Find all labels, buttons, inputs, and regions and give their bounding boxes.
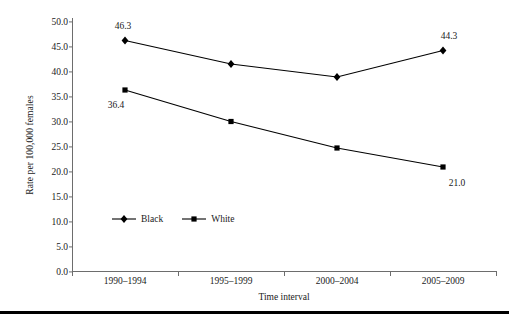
- x-tick-label: 1990–1994: [65, 276, 185, 286]
- diamond-marker-icon: [111, 213, 137, 225]
- data-point-marker: [228, 60, 235, 68]
- data-point-marker: [440, 164, 445, 169]
- y-tick-label: 45.0: [26, 42, 68, 52]
- y-tick-label: 30.0: [26, 117, 68, 127]
- data-point-marker: [334, 73, 341, 81]
- series-line: [125, 90, 443, 167]
- data-point-marker: [122, 87, 127, 92]
- y-tick-label: 35.0: [26, 92, 68, 102]
- y-tick-label: 0.0: [26, 267, 68, 277]
- x-tick-label: 2000–2004: [277, 276, 397, 286]
- square-marker-icon: [181, 213, 207, 225]
- x-axis-title: Time interval: [72, 292, 496, 302]
- chart-legend: BlackWhite: [108, 212, 237, 226]
- legend-item-black: Black: [111, 213, 163, 225]
- y-tick-label: 10.0: [26, 217, 68, 227]
- y-tick-label: 50.0: [26, 17, 68, 27]
- y-tick-label: 40.0: [26, 67, 68, 77]
- chart-figure: Rate per 100,000 females 50.045.040.035.…: [0, 0, 509, 324]
- series-white: [122, 87, 445, 169]
- y-tick-label: 5.0: [26, 242, 68, 252]
- legend-label: White: [211, 214, 234, 224]
- data-point-marker: [228, 119, 233, 124]
- data-point-label: 44.3: [441, 31, 458, 41]
- series-black: [122, 37, 447, 81]
- data-point-label: 46.3: [115, 21, 132, 31]
- plot-area: 50.045.040.035.030.025.020.015.010.05.00…: [72, 22, 496, 272]
- x-tick-label: 2005–2009: [383, 276, 503, 286]
- data-point-marker: [334, 145, 339, 150]
- bottom-divider: [0, 311, 509, 314]
- series-line: [125, 41, 443, 78]
- data-point-label: 36.4: [108, 100, 125, 110]
- data-point-label: 21.0: [449, 178, 466, 188]
- x-tick-label: 1995–1999: [171, 276, 291, 286]
- data-point-marker: [122, 37, 129, 45]
- y-tick-label: 20.0: [26, 167, 68, 177]
- data-point-marker: [440, 47, 447, 55]
- series-plot: [72, 22, 496, 272]
- y-tick-label: 15.0: [26, 192, 68, 202]
- legend-item-white: White: [181, 213, 234, 225]
- legend-label: Black: [141, 214, 163, 224]
- y-tick-label: 25.0: [26, 142, 68, 152]
